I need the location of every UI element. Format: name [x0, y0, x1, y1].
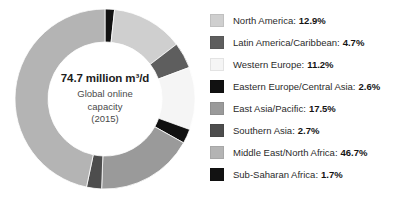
donut-chart-figure: 74.7 million m³/d Global online capacity…: [0, 0, 403, 198]
legend-item: Sub-Saharan Africa: 1.7%: [210, 163, 403, 185]
legend-swatch-icon: [210, 102, 224, 115]
legend-item-value: 46.7%: [341, 147, 368, 158]
legend-swatch-icon: [210, 36, 224, 49]
donut-slice: [15, 9, 105, 187]
legend-swatch-icon: [210, 146, 224, 159]
legend-item-value: 4.7%: [343, 37, 365, 48]
legend-swatch-icon: [210, 124, 224, 137]
legend-item-value: 2.7%: [298, 125, 320, 136]
donut-chart-panel: 74.7 million m³/d Global online capacity…: [0, 0, 210, 198]
legend-item-label: North America:: [233, 15, 296, 26]
legend-item-label: Eastern Europe/Central Asia:: [233, 81, 356, 92]
legend-item-value: 2.6%: [359, 81, 381, 92]
donut-slice-group: [15, 9, 195, 189]
legend-swatch-icon: [210, 80, 224, 93]
legend-item-label: Latin America/Caribbean:: [233, 37, 340, 48]
legend-swatch-icon: [210, 168, 224, 181]
legend-item-value: 12.9%: [299, 15, 326, 26]
legend-item: East Asia/Pacific: 17.5%: [210, 97, 403, 119]
chart-legend: North America: 12.9% Latin America/Carib…: [210, 0, 403, 198]
donut-chart-svg: [8, 2, 202, 196]
legend-item: Western Europe: 11.2%: [210, 53, 403, 75]
legend-item: Southern Asia: 2.7%: [210, 119, 403, 141]
donut-slice: [102, 127, 184, 189]
legend-item-value: 1.7%: [321, 169, 343, 180]
legend-swatch-icon: [210, 58, 224, 71]
legend-item: North America: 12.9%: [210, 9, 403, 31]
legend-item-label: Southern Asia:: [233, 125, 295, 136]
legend-swatch-icon: [210, 14, 224, 27]
legend-item: Latin America/Caribbean: 4.7%: [210, 31, 403, 53]
legend-item-label: Middle East/North Africa:: [233, 147, 338, 158]
legend-item: Eastern Europe/Central Asia: 2.6%: [210, 75, 403, 97]
legend-item-value: 11.2%: [307, 59, 333, 70]
legend-item-label: Sub-Saharan Africa:: [233, 169, 318, 180]
legend-item-value: 17.5%: [309, 103, 336, 114]
legend-item-label: Western Europe:: [233, 59, 304, 70]
legend-item-label: East Asia/Pacific:: [233, 103, 306, 114]
legend-item: Middle East/North Africa: 46.7%: [210, 141, 403, 163]
